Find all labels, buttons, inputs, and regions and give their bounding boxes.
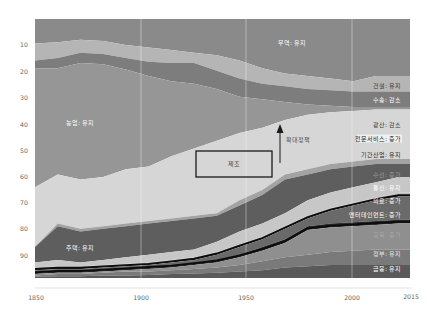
y-tick: 40 — [20, 121, 28, 128]
y-tick: 50 — [20, 147, 28, 154]
label-construction: 건설: 유지 — [373, 82, 401, 90]
label-finance: 금융: 유지 — [373, 265, 401, 273]
label-education: 교육: 증가 — [373, 231, 401, 239]
label-housing: 주택: 유지 — [66, 244, 94, 252]
area-bands — [35, 19, 410, 278]
label-transport: 수송: 감소 — [373, 96, 401, 104]
x-tick: 2000 — [344, 294, 360, 301]
y-axis: 10 20 30 40 50 60 70 80 90 — [20, 41, 28, 259]
y-tick: 70 — [20, 199, 28, 206]
label-mining: 광산: 감소 — [373, 121, 401, 128]
x-axis: 1850 1900 1950 2000 2015 — [28, 293, 419, 301]
svg-text:전문서비스: 증가: 전문서비스: 증가 — [355, 135, 401, 143]
y-tick: 20 — [20, 68, 28, 75]
y-tick: 10 — [20, 41, 28, 48]
label-infrastructure: 기간산업: 유지 — [361, 151, 401, 159]
label-trade: 무역: 유지 — [278, 39, 306, 47]
y-tick: 60 — [20, 173, 28, 180]
x-tick: 1900 — [133, 294, 149, 301]
expansion-label: 확대정책 — [286, 136, 310, 144]
label-repair: 수선: 증가 — [373, 171, 401, 179]
x-tick: 1950 — [238, 294, 254, 301]
manufacturing-label: 제조 — [228, 160, 240, 168]
label-medical: 의료: 증가 — [373, 197, 401, 205]
label-entertainment: 엔터테인먼트: 증가 — [349, 211, 401, 219]
y-tick: 90 — [20, 252, 28, 259]
stacked-area-chart: 10 20 30 40 50 60 70 80 90 1850 1900 195… — [0, 0, 439, 318]
label-agriculture: 농업: 유지 — [66, 119, 94, 127]
label-pro-services: 전문서비스: 증가 — [355, 135, 402, 144]
y-tick: 30 — [20, 94, 28, 101]
x-tick: 1850 — [28, 294, 44, 301]
x-tick: 2015 — [403, 293, 419, 300]
label-telecom: 통신: 유지 — [373, 184, 401, 192]
y-tick: 80 — [20, 225, 28, 232]
label-government: 정부: 유지 — [373, 250, 401, 258]
